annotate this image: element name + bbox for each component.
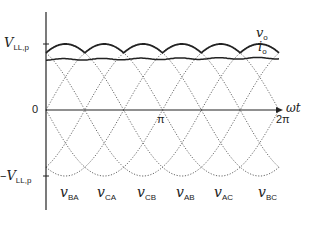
label-v-ac: vAC xyxy=(214,185,233,199)
y-label-negative-sub: LL,p xyxy=(16,176,32,185)
y-label-negative-peak: −VLL,p xyxy=(0,169,31,182)
label-v-ca-main: v xyxy=(97,184,105,200)
label-v-bc-main: v xyxy=(258,184,266,200)
label-v-ab-main: v xyxy=(176,184,184,200)
x-tick-pi: π xyxy=(157,114,165,125)
y-label-negative-main: V xyxy=(6,168,15,183)
label-v-ac-main: v xyxy=(214,184,222,200)
label-v-cb-main: v xyxy=(137,184,145,200)
label-output-current: io xyxy=(258,40,267,53)
label-v-ca: vCA xyxy=(97,185,116,199)
label-output-current-sub: o xyxy=(262,47,266,56)
label-v-ab-sub: AB xyxy=(184,193,195,202)
label-output-voltage: vo xyxy=(256,26,268,39)
output-voltage-envelope xyxy=(46,44,279,53)
y-label-zero: 0 xyxy=(32,104,38,115)
label-v-ab: vAB xyxy=(176,185,195,199)
label-v-bc: vBC xyxy=(258,185,277,199)
label-v-ba-sub: BA xyxy=(68,193,79,202)
label-v-ac-sub: AC xyxy=(222,193,233,202)
output-current-curve xyxy=(46,57,279,60)
y-label-positive-main: V xyxy=(4,35,13,50)
label-v-ba: vBA xyxy=(60,185,79,199)
label-v-ba-main: v xyxy=(60,184,68,200)
label-v-cb: vCB xyxy=(137,185,156,199)
label-v-cb-sub: CB xyxy=(145,193,156,202)
label-v-bc-sub: BC xyxy=(266,193,277,202)
y-label-positive-sub: LL,p xyxy=(13,43,29,52)
y-label-positive-peak: VLL,p xyxy=(4,36,29,49)
label-v-ca-sub: CA xyxy=(105,193,116,202)
x-tick-2pi: 2π xyxy=(276,114,290,125)
